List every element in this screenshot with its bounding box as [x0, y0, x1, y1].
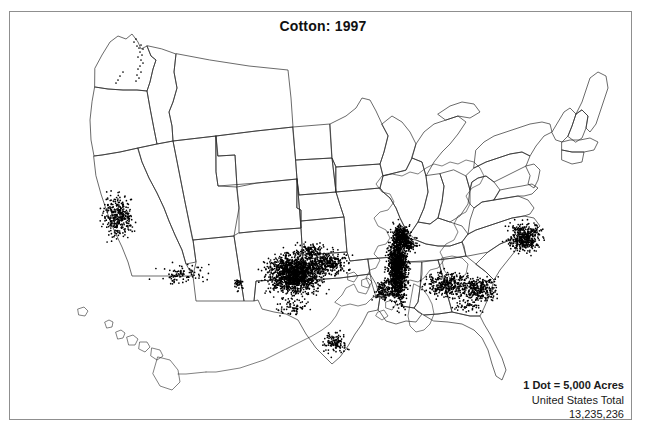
- legend-total-value: 13,235,236: [523, 407, 624, 422]
- legend-total-label: United States Total: [523, 393, 624, 408]
- dot-cluster: [451, 301, 483, 313]
- dot-cluster: [276, 297, 311, 317]
- dot-cluster: [99, 190, 136, 243]
- map-legend: 1 Dot = 5,000 Acres United States Total …: [523, 378, 624, 422]
- us-dot-density-map: {}: [10, 12, 631, 419]
- dot-cluster: [371, 277, 398, 301]
- dot-density-layer: {}: [99, 38, 545, 358]
- dot-cluster: [322, 330, 350, 358]
- map-figure: Cotton: 1997: [0, 0, 646, 434]
- map-svg: {}: [10, 12, 631, 419]
- dot-cluster: [149, 262, 210, 285]
- legend-dot-value: 1 Dot = 5,000 Acres: [523, 378, 624, 393]
